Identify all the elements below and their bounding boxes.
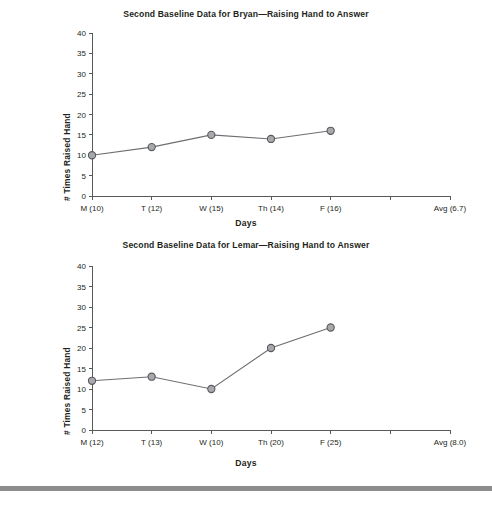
x-tick-label: W (10) bbox=[199, 438, 223, 447]
x-tick-label: F (25) bbox=[320, 438, 342, 447]
data-point-marker bbox=[208, 131, 215, 138]
y-tick-label: 0 bbox=[82, 426, 87, 435]
y-tick-label: 10 bbox=[77, 151, 86, 160]
data-point-marker bbox=[327, 127, 334, 134]
footer-divider-bar bbox=[0, 486, 492, 491]
y-tick-label: 35 bbox=[77, 283, 86, 292]
y-tick-label: 25 bbox=[77, 324, 86, 333]
y-tick-label: 40 bbox=[77, 262, 86, 271]
data-point-marker bbox=[267, 135, 274, 142]
data-point-marker bbox=[148, 373, 155, 380]
line-chart-bryan: 0510152025303540M (10)T (12)W (15)Th (14… bbox=[0, 26, 492, 216]
y-tick-label: 5 bbox=[82, 406, 87, 415]
chart-title-bryan: Second Baseline Data for Bryan—Raising H… bbox=[0, 9, 492, 19]
y-tick-label: 30 bbox=[77, 303, 86, 312]
y-tick-label: 10 bbox=[77, 385, 86, 394]
data-point-marker bbox=[88, 152, 95, 159]
data-point-marker bbox=[208, 385, 215, 392]
x-tick-label: M (12) bbox=[80, 438, 103, 447]
chart-figure-bryan: Second Baseline Data for Bryan—Raising H… bbox=[0, 0, 492, 232]
x-tick-label: Avg (8.0) bbox=[434, 438, 467, 447]
data-point-marker bbox=[148, 144, 155, 151]
y-tick-label: 20 bbox=[77, 344, 86, 353]
y-tick-label: 0 bbox=[82, 192, 87, 201]
x-axis-title-lemar: Days bbox=[0, 458, 492, 468]
plot-area-lemar: # Times Raised Hand Days 051015202530354… bbox=[0, 258, 492, 472]
x-tick-label: W (15) bbox=[199, 204, 223, 213]
y-tick-label: 5 bbox=[82, 172, 87, 181]
y-tick-label: 40 bbox=[77, 29, 86, 38]
y-tick-label: 25 bbox=[77, 90, 86, 99]
y-tick-label: 20 bbox=[77, 111, 86, 120]
data-point-marker bbox=[327, 324, 334, 331]
x-tick-label: F (16) bbox=[320, 204, 342, 213]
y-tick-label: 30 bbox=[77, 70, 86, 79]
data-point-marker bbox=[88, 377, 95, 384]
y-tick-label: 15 bbox=[77, 131, 86, 140]
x-tick-label: Th (14) bbox=[258, 204, 284, 213]
y-tick-label: 15 bbox=[77, 365, 86, 374]
x-tick-label: Th (20) bbox=[258, 438, 284, 447]
chart-figure-lemar: Second Baseline Data for Lemar—Raising H… bbox=[0, 232, 492, 472]
series-line bbox=[92, 328, 331, 390]
x-tick-label: M (10) bbox=[80, 204, 103, 213]
plot-area-bryan: # Times Raised Hand Days 051015202530354… bbox=[0, 26, 492, 232]
x-axis-title-bryan: Days bbox=[0, 218, 492, 228]
chart-title-lemar: Second Baseline Data for Lemar—Raising H… bbox=[0, 240, 492, 250]
y-tick-label: 35 bbox=[77, 49, 86, 58]
x-tick-label: T (13) bbox=[141, 438, 163, 447]
x-tick-label: Avg (6.7) bbox=[434, 204, 467, 213]
data-point-marker bbox=[267, 344, 274, 351]
x-tick-label: T (12) bbox=[141, 204, 163, 213]
line-chart-lemar: 0510152025303540M (12)T (13)W (10)Th (20… bbox=[0, 258, 492, 456]
